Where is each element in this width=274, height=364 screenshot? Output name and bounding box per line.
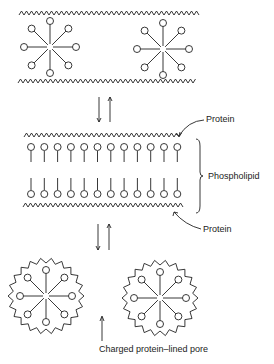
membrane-diagram: Protein Phospholipid Protein Charged pro…	[0, 0, 274, 364]
micelle-left-tail	[34, 31, 48, 45]
micelle-right-head	[134, 46, 141, 53]
lipid-head-top	[94, 144, 101, 151]
micelle-right-tail	[147, 51, 161, 65]
micelle-coated-left-tail	[30, 298, 44, 312]
micelle-coated-right-tail	[144, 282, 158, 296]
protein-coat-right	[122, 260, 198, 335]
micelle-coated-left-tail	[48, 298, 62, 312]
micelle-coated-right-head	[131, 295, 138, 302]
micelle-coated-left-tail	[48, 280, 62, 294]
bilayer-protein-top	[24, 133, 182, 137]
lipid-head-top	[147, 144, 154, 151]
protein-bottom-label: Protein	[203, 224, 232, 234]
micelle-coated-right-head	[138, 276, 145, 283]
micelle-left-head	[28, 25, 35, 32]
micelle-right-head	[186, 46, 193, 53]
micelle-right-tail	[147, 33, 161, 47]
lipid-head-bottom	[81, 191, 88, 198]
lipid-head-top	[107, 144, 114, 151]
micelle-coated-left-head	[24, 311, 31, 318]
micelle-right-head	[160, 72, 167, 79]
protein-coat-left	[8, 258, 84, 333]
lipid-head-top	[54, 144, 61, 151]
micelle-right-head	[141, 27, 148, 34]
micelle-coated-right-tail	[162, 300, 176, 314]
micelle-right-head	[178, 64, 185, 71]
micelle-coated-left-head	[69, 293, 76, 300]
lipid-head-top	[174, 144, 181, 151]
lipid-head-bottom	[174, 191, 181, 198]
lipid-head-bottom	[54, 191, 61, 198]
micelle-right-head	[141, 64, 148, 71]
lipid-head-top	[41, 144, 48, 151]
lipid-head-bottom	[147, 191, 154, 198]
micelle-right-tail	[165, 33, 179, 47]
micelle-left-head	[65, 62, 72, 69]
lipid-head-bottom	[67, 191, 74, 198]
micelle-left-head	[65, 25, 72, 32]
micelle-left-tail	[52, 31, 66, 45]
micelle-left-head	[28, 62, 35, 69]
lipid-head-bottom	[161, 191, 168, 198]
protein-layer-top	[19, 11, 199, 15]
lipid-head-bottom	[94, 191, 101, 198]
micelle-left-tail	[52, 49, 66, 63]
protein-top-pointer	[179, 120, 204, 136]
micelle-coated-right-head	[138, 313, 145, 320]
micelle-coated-left-head	[43, 319, 50, 326]
micelle-left-tail	[34, 49, 48, 63]
protein-bottom-pointer	[174, 212, 201, 229]
micelle-coated-right-tail	[144, 300, 158, 314]
micelle-left-head	[47, 70, 54, 77]
lipid-head-bottom	[121, 191, 128, 198]
bilayer-protein-bottom	[23, 203, 183, 207]
micelle-right-head	[178, 27, 185, 34]
lipid-head-top	[67, 144, 74, 151]
micelle-coated-left-tail	[30, 280, 44, 294]
lipid-head-bottom	[41, 191, 48, 198]
lipid-head-bottom	[28, 191, 35, 198]
lipid-head-top	[81, 144, 88, 151]
micelle-coated-left-head	[43, 267, 50, 274]
protein-layer-bottom	[18, 79, 196, 83]
micelle-coated-left-head	[17, 293, 24, 300]
lipid-head-bottom	[107, 191, 114, 198]
lipid-head-top	[161, 144, 168, 151]
phospholipid-label: Phospholipid	[208, 171, 260, 181]
micelle-coated-left-head	[61, 311, 68, 318]
pore-label: Charged protein–lined pore	[99, 344, 208, 354]
protein-top-label: Protein	[206, 114, 235, 124]
micelle-coated-left-head	[61, 274, 68, 281]
micelle-coated-right-head	[157, 321, 164, 328]
micelle-left-head	[73, 44, 80, 51]
micelle-coated-right-head	[183, 295, 190, 302]
micelle-right-head	[160, 20, 167, 27]
phospholipid-bracket	[196, 139, 203, 213]
micelle-coated-right-head	[175, 313, 182, 320]
lipid-head-top	[28, 144, 35, 151]
micelle-right-tail	[165, 51, 179, 65]
lipid-head-top	[134, 144, 141, 151]
lipid-head-bottom	[134, 191, 141, 198]
micelle-left-head	[47, 18, 54, 25]
micelle-coated-right-head	[157, 269, 164, 276]
micelle-coated-left-head	[24, 274, 31, 281]
micelle-coated-right-head	[175, 276, 182, 283]
lipid-head-top	[121, 144, 128, 151]
micelle-left-head	[21, 44, 28, 51]
micelle-coated-right-tail	[162, 282, 176, 296]
